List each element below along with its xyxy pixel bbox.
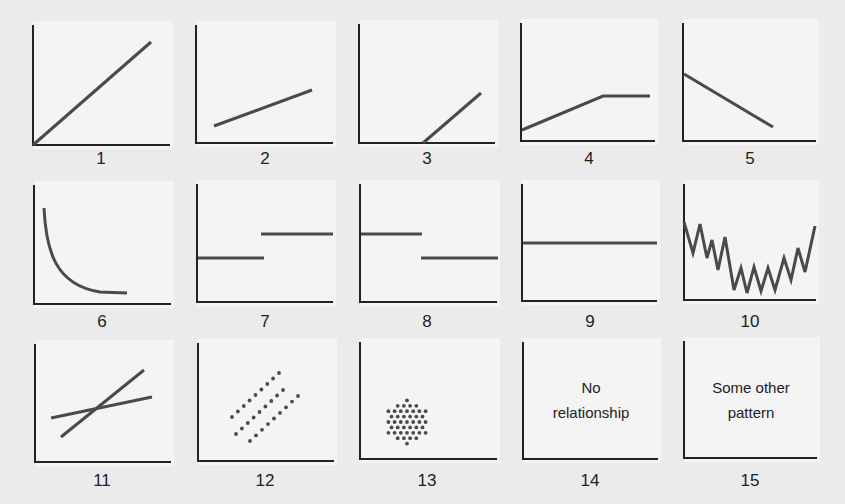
panel-label-14: 14 — [570, 472, 610, 489]
dot-13 — [424, 431, 428, 435]
panel-label-15: 15 — [730, 472, 770, 489]
dot-12-1 — [242, 404, 246, 408]
panel-15-line-1: Some other — [681, 375, 821, 400]
dot-12-2 — [252, 416, 256, 420]
dot-12-1 — [277, 371, 281, 375]
dot-13 — [399, 420, 403, 424]
dot-13 — [387, 420, 391, 424]
dot-13 — [405, 399, 409, 403]
dot-13 — [393, 420, 397, 424]
dot-13 — [418, 420, 422, 424]
dot-12-3 — [290, 400, 294, 404]
dot-12-2 — [246, 421, 250, 425]
dot-13 — [424, 420, 428, 424]
panel-label-8: 8 — [407, 313, 447, 330]
dot-13 — [405, 431, 409, 435]
dot-13 — [411, 420, 415, 424]
dot-12-2 — [269, 399, 273, 403]
dot-12-1 — [271, 377, 275, 381]
panel-label-9: 9 — [570, 313, 610, 330]
dot-12-3 — [266, 422, 270, 426]
dot-13 — [414, 415, 418, 419]
dot-13 — [387, 409, 391, 413]
panel-label-6: 6 — [82, 313, 122, 330]
dot-13 — [405, 409, 409, 413]
dot-13 — [396, 436, 400, 440]
dot-12-2 — [264, 405, 268, 409]
dot-13 — [402, 436, 406, 440]
dot-13 — [390, 415, 394, 419]
dot-12-3 — [248, 439, 252, 443]
dot-13 — [390, 426, 394, 430]
dot-12-3 — [284, 405, 288, 409]
panel-bg-4 — [521, 19, 658, 145]
panel-bg-7 — [197, 180, 336, 306]
dot-13 — [399, 431, 403, 435]
dot-13 — [418, 409, 422, 413]
dot-12-3 — [254, 434, 258, 438]
dot-13 — [411, 409, 415, 413]
dot-13 — [393, 409, 397, 413]
panel-bg-5 — [683, 19, 819, 145]
dot-13 — [411, 431, 415, 435]
dot-12-3 — [278, 411, 282, 415]
dot-12-2 — [240, 427, 244, 431]
dot-13 — [418, 431, 422, 435]
panel-bg-3 — [359, 20, 498, 147]
dot-12-2 — [258, 410, 262, 414]
dot-13 — [408, 436, 412, 440]
panel-label-10: 10 — [730, 313, 770, 330]
dot-12-2 — [275, 394, 279, 398]
dot-12-1 — [230, 415, 234, 419]
dot-13 — [396, 415, 400, 419]
dot-13 — [402, 415, 406, 419]
dot-13 — [424, 409, 428, 413]
pattern-grid: 1 2 3 4 5 6 7 8 9 10 11 12 13 14 15 No r… — [0, 0, 845, 504]
dot-13 — [399, 409, 403, 413]
dot-13 — [396, 404, 400, 408]
panel-label-4: 4 — [569, 150, 609, 167]
panel-14-text: No relationship — [521, 375, 661, 425]
dot-12-3 — [272, 417, 276, 421]
dot-13 — [393, 431, 397, 435]
panel-label-5: 5 — [730, 150, 770, 167]
panel-label-7: 7 — [245, 313, 285, 330]
dot-13 — [402, 404, 406, 408]
panel-label-11: 11 — [82, 472, 122, 489]
panel-label-13: 13 — [407, 472, 447, 489]
dot-12-1 — [248, 399, 252, 403]
dot-12-1 — [260, 388, 264, 392]
dot-13 — [402, 426, 406, 430]
panel-bg-13 — [360, 338, 500, 463]
dot-13 — [408, 415, 412, 419]
dot-13 — [421, 426, 425, 430]
panel-15-line-2: pattern — [681, 400, 821, 425]
dot-12-1 — [254, 393, 258, 397]
dot-13 — [387, 431, 391, 435]
panel-label-12: 12 — [245, 472, 285, 489]
dot-13 — [405, 442, 409, 446]
dot-12-3 — [296, 394, 300, 398]
dot-13 — [408, 426, 412, 430]
panel-bg-6 — [34, 181, 174, 308]
dot-13 — [408, 404, 412, 408]
panel-label-3: 3 — [407, 150, 447, 167]
panel-bg-8 — [360, 180, 500, 306]
dot-13 — [414, 426, 418, 430]
panel-canvas — [0, 0, 845, 504]
panel-label-1: 1 — [81, 150, 121, 167]
dot-13 — [414, 404, 418, 408]
dot-12-2 — [234, 432, 238, 436]
dot-13 — [414, 436, 418, 440]
dot-12-1 — [265, 382, 269, 386]
panel-15-text: Some other pattern — [681, 375, 821, 425]
panel-14-line-2: relationship — [521, 400, 661, 425]
dot-13 — [421, 415, 425, 419]
dot-12-3 — [260, 428, 264, 432]
dot-13 — [405, 420, 409, 424]
panel-label-2: 2 — [245, 150, 285, 167]
panel-14-line-1: No — [521, 375, 661, 400]
panel-bg-12 — [198, 339, 337, 465]
dot-12-2 — [281, 388, 285, 392]
dot-13 — [396, 426, 400, 430]
